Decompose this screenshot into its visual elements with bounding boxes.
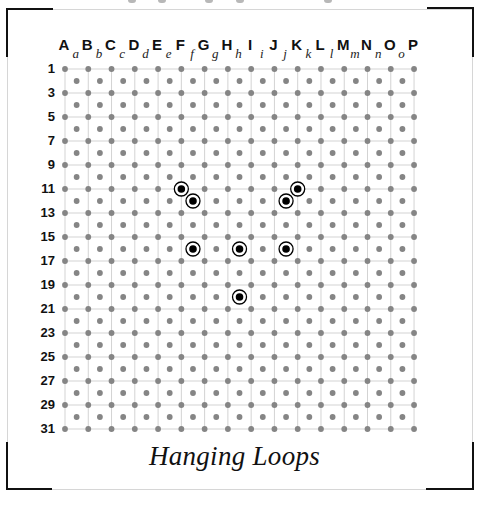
grid-dot (62, 138, 68, 144)
grid-dot (178, 282, 184, 288)
grid-dot (400, 294, 406, 300)
grid-dot (74, 270, 80, 276)
grid-dot (306, 198, 312, 204)
loop-marker-dot (189, 197, 197, 205)
grid-dot (365, 378, 371, 384)
grid-dot (260, 126, 266, 132)
grid-dot (155, 114, 161, 120)
grid-dot (330, 366, 336, 372)
grid-dot (330, 318, 336, 324)
grid-dot (74, 414, 80, 420)
grid-dot (411, 282, 417, 288)
grid-dot (306, 126, 312, 132)
grid-dot (411, 234, 417, 240)
grid-dot (109, 354, 115, 360)
grid-dot (260, 366, 266, 372)
grid-dot (365, 234, 371, 240)
grid-dot (120, 246, 126, 252)
grid-dot (225, 306, 231, 312)
grid-dot (411, 378, 417, 384)
grid-dot (318, 234, 324, 240)
grid-dot (97, 390, 103, 396)
grid-dot (190, 390, 196, 396)
grid-dot (330, 294, 336, 300)
grid-dot (388, 66, 394, 72)
grid-dot (330, 78, 336, 84)
grid-dot (132, 306, 138, 312)
grid-dot (62, 282, 68, 288)
grid-dot (318, 66, 324, 72)
grid-dot (237, 102, 243, 108)
grid-dot (318, 138, 324, 144)
column-header-o: o (398, 46, 405, 62)
column-header-f: f (190, 46, 194, 62)
grid-dot (248, 402, 254, 408)
grid-dot (260, 342, 266, 348)
grid-dot (190, 102, 196, 108)
row-label-9: 9 (48, 158, 55, 172)
grid-dot (248, 90, 254, 96)
grid-dot (178, 426, 184, 432)
grid-dot (306, 246, 312, 252)
grid-dot (400, 414, 406, 420)
grid-dot (109, 258, 115, 264)
grid-dot (330, 102, 336, 108)
grid-dot (213, 126, 219, 132)
grid-dot (318, 330, 324, 336)
grid-dot (97, 150, 103, 156)
grid-dot (190, 366, 196, 372)
grid-dot (167, 294, 173, 300)
column-header-e: e (166, 46, 172, 62)
grid-dot (365, 90, 371, 96)
grid-dot (97, 222, 103, 228)
grid-dot (167, 366, 173, 372)
grid-dot (155, 330, 161, 336)
grid-dot (190, 342, 196, 348)
grid-dot (341, 162, 347, 168)
grid-dot (109, 114, 115, 120)
grid-dot (178, 138, 184, 144)
grid-dot (388, 186, 394, 192)
grid-dot (237, 126, 243, 132)
grid-dot (341, 114, 347, 120)
grid-dot (376, 198, 382, 204)
grid-dot (388, 162, 394, 168)
grid-dot (260, 174, 266, 180)
column-header-l: l (330, 46, 334, 62)
grid-dot (365, 114, 371, 120)
grid-dot (330, 246, 336, 252)
grid-dot (190, 174, 196, 180)
grid-dot (411, 90, 417, 96)
grid-dot (272, 330, 278, 336)
grid-dot (295, 162, 301, 168)
grid-dot (341, 90, 347, 96)
grid-dot (365, 210, 371, 216)
grid-dot (306, 174, 312, 180)
grid-dot (248, 330, 254, 336)
grid-dot (318, 114, 324, 120)
grid-dot (237, 174, 243, 180)
column-header-H: H (221, 36, 232, 54)
grid-dot (202, 378, 208, 384)
loop-marker-dot (178, 185, 186, 193)
grid-dot (295, 402, 301, 408)
grid-dot (260, 414, 266, 420)
grid-dot (97, 318, 103, 324)
grid-dot (260, 390, 266, 396)
grid-dot (213, 318, 219, 324)
grid-dot (341, 378, 347, 384)
grid-dot (376, 270, 382, 276)
grid-dot (376, 342, 382, 348)
grid-dot (353, 198, 359, 204)
grid-dot (306, 102, 312, 108)
grid-dot (120, 366, 126, 372)
grid-dot (341, 186, 347, 192)
grid-dot (400, 342, 406, 348)
grid-dot (167, 102, 173, 108)
grid-dot (411, 330, 417, 336)
row-label-31: 31 (41, 422, 55, 436)
grid-dot (202, 66, 208, 72)
grid-dot (353, 126, 359, 132)
grid-dot (388, 306, 394, 312)
grid-dot (306, 318, 312, 324)
